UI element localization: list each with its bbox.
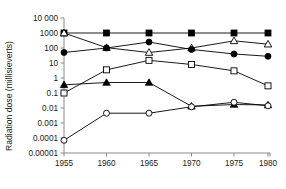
y-axis-tick-label: 0.01 (42, 104, 58, 113)
marker-open-circle (231, 99, 237, 105)
marker-open-square (61, 90, 67, 96)
y-axis-tick-label: 100 (44, 44, 58, 53)
marker-open-circle (104, 110, 110, 116)
marker-open-square (189, 61, 195, 67)
y-axis-tick-label: 1000 (40, 29, 59, 38)
x-axis-tick-label: 1955 (55, 159, 74, 168)
x-axis-tick-label: 1970 (182, 159, 201, 168)
marker-filled-circle (189, 46, 195, 52)
marker-open-square (146, 57, 152, 63)
marker-filled-circle (265, 53, 271, 59)
marker-filled-circle (61, 50, 67, 56)
y-axis-tick-label: 0.0001 (33, 134, 58, 143)
x-axis-tick-label: 1965 (140, 159, 159, 168)
marker-open-circle (189, 104, 195, 110)
y-axis-title: Radiation dose (millisieverts) (4, 41, 14, 151)
marker-open-circle (61, 137, 67, 143)
marker-filled-square (104, 30, 110, 36)
marker-open-square (265, 83, 271, 89)
marker-open-square (231, 68, 237, 74)
chart-container: 10 00010001001010.10.010.0010.00010.0000… (0, 0, 286, 189)
marker-filled-circle (104, 45, 110, 51)
marker-open-circle (265, 103, 271, 109)
x-axis-tick-label: 1980 (259, 159, 278, 168)
marker-open-circle (146, 110, 152, 116)
marker-filled-square (231, 30, 237, 36)
y-axis-tick-label: 0.00001 (28, 149, 58, 158)
x-axis-tick-label: 1975 (225, 159, 244, 168)
marker-filled-square (189, 30, 195, 36)
y-axis-tick-label: 0.001 (38, 119, 59, 128)
y-axis-tick-label: 10 000 (33, 14, 58, 23)
marker-filled-square (265, 30, 271, 36)
x-axis-tick-label: 1960 (97, 159, 116, 168)
marker-filled-square (146, 30, 152, 36)
y-axis-tick-label: 1 (53, 74, 58, 83)
y-axis-tick-label: 0.1 (47, 89, 59, 98)
y-axis-tick-label: 10 (49, 59, 59, 68)
marker-filled-circle (146, 39, 152, 45)
marker-open-square (104, 67, 110, 73)
marker-filled-circle (231, 51, 237, 57)
radiation-dose-line-chart: 10 00010001001010.10.010.0010.00010.0000… (0, 0, 286, 189)
